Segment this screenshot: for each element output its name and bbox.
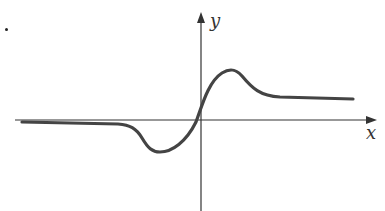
y-axis-label: y [210,12,220,30]
graph-canvas [0,0,385,211]
function-curve [22,70,353,152]
x-axis-label: x [366,124,376,142]
marker-dot [5,28,8,31]
y-axis-arrow-icon [197,12,205,23]
